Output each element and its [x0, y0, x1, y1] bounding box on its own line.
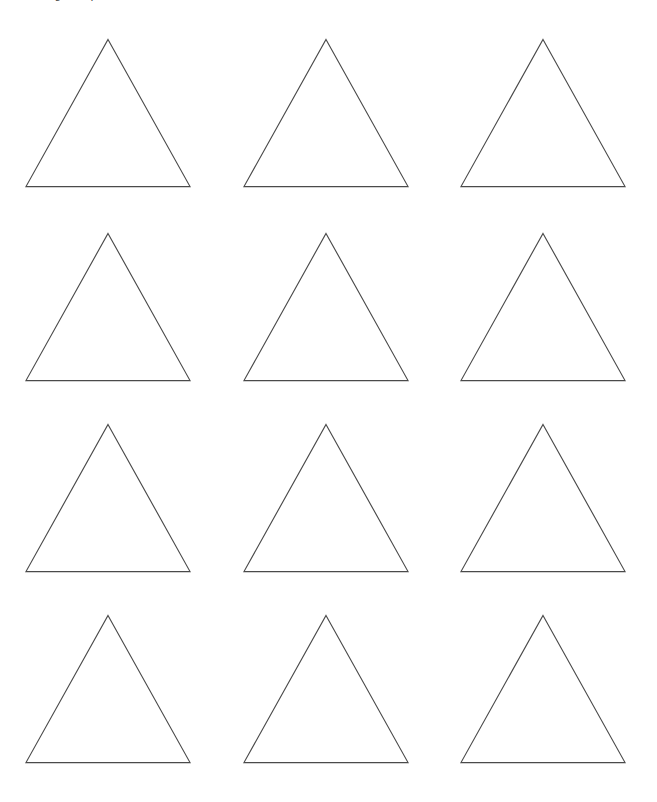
triangle-outline-path — [26, 615, 190, 762]
triangle-icon — [457, 35, 629, 191]
triangle-shape — [22, 420, 195, 576]
triangle-icon — [22, 420, 194, 576]
triangle-shape — [240, 420, 413, 576]
worksheet-page: Triangle template — [0, 0, 657, 802]
triangle-icon — [22, 611, 194, 767]
triangle-outline-path — [244, 424, 408, 571]
triangle-shape — [22, 229, 195, 385]
triangle-outline-path — [461, 615, 625, 762]
triangle-icon — [457, 420, 629, 576]
triangle-icon — [22, 35, 194, 191]
triangle-shape — [240, 35, 413, 191]
triangle-icon — [240, 35, 412, 191]
triangle-shape — [240, 229, 413, 385]
triangle-shape — [22, 611, 195, 767]
triangle-outline-path — [461, 424, 625, 571]
triangle-grid — [0, 0, 657, 802]
triangle-outline-path — [461, 233, 625, 380]
triangle-shape — [457, 229, 630, 385]
triangle-outline-path — [461, 39, 625, 186]
triangle-icon — [240, 611, 412, 767]
triangle-shape — [240, 611, 413, 767]
triangle-outline-path — [26, 424, 190, 571]
triangle-icon — [240, 420, 412, 576]
triangle-icon — [240, 229, 412, 385]
triangle-outline-path — [244, 233, 408, 380]
triangle-outline-path — [244, 615, 408, 762]
triangle-outline-path — [244, 39, 408, 186]
triangle-icon — [22, 229, 194, 385]
triangle-shape — [457, 35, 630, 191]
triangle-shape — [457, 420, 630, 576]
triangle-shape — [457, 611, 630, 767]
triangle-shape — [22, 35, 195, 191]
triangle-outline-path — [26, 233, 190, 380]
triangle-icon — [457, 611, 629, 767]
triangle-icon — [457, 229, 629, 385]
triangle-outline-path — [26, 39, 190, 186]
